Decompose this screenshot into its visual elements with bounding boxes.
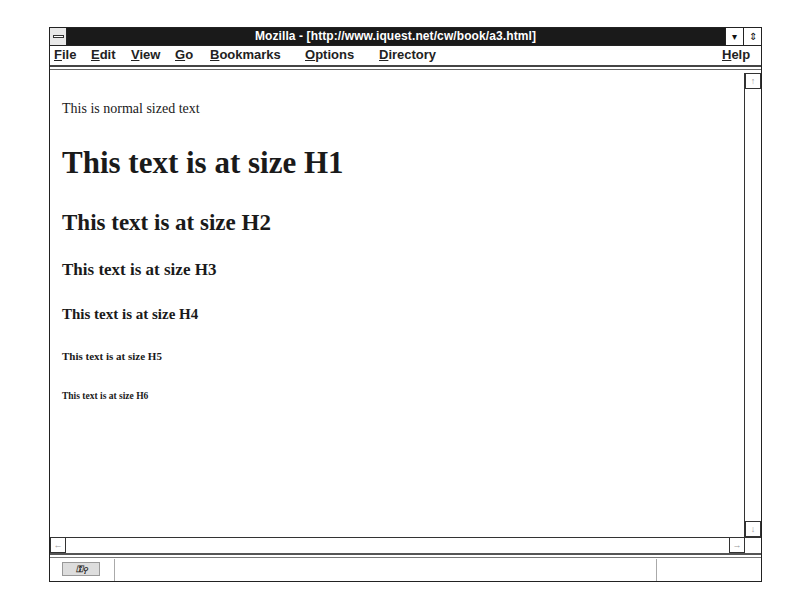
menu-file[interactable]: File: [54, 47, 76, 63]
status-divider: [50, 553, 761, 555]
status-progress: [656, 559, 761, 581]
heading-h5: This text is at size H5: [62, 350, 162, 362]
arrow-up-icon: ↑: [751, 76, 756, 86]
menu-bookmarks-label: ookmarks: [219, 47, 280, 62]
heading-h1: This text is at size H1: [62, 145, 344, 181]
scroll-right-button[interactable]: →: [729, 537, 745, 553]
maximize-button[interactable]: ⇕: [743, 28, 761, 45]
system-menu-button[interactable]: [50, 28, 67, 45]
menu-help-accel: H: [722, 47, 731, 62]
menu-bookmarks-accel: B: [210, 47, 219, 62]
scrollbar-corner: [745, 537, 761, 552]
minimize-icon: ▾: [732, 31, 737, 42]
vertical-scrollbar[interactable]: ↑ ↓: [745, 73, 761, 537]
menu-view-label: iew: [139, 47, 160, 62]
menu-view[interactable]: View: [131, 47, 160, 63]
title-bar[interactable]: Mozilla - [http://www.iquest.net/cw/book…: [50, 28, 761, 46]
horizontal-scrollbar[interactable]: ← →: [50, 537, 745, 552]
menu-edit-label: dit: [100, 47, 116, 62]
page-content: This is normal sized text This text is a…: [50, 73, 745, 537]
menu-edit-accel: E: [91, 47, 100, 62]
heading-h2: This text is at size H2: [62, 210, 271, 236]
status-bar: ⚿⚲: [50, 559, 761, 581]
menu-options[interactable]: Options: [305, 47, 354, 63]
scroll-down-button[interactable]: ↓: [745, 521, 761, 537]
menu-directory[interactable]: Directory: [379, 47, 436, 63]
minimize-button[interactable]: ▾: [725, 28, 743, 45]
security-key-icon[interactable]: ⚿⚲: [62, 562, 100, 576]
menu-options-label: ptions: [315, 47, 354, 62]
menu-divider-inner: [50, 69, 761, 70]
system-menu-icon: [53, 35, 64, 38]
browser-window: Mozilla - [http://www.iquest.net/cw/book…: [49, 27, 762, 582]
menu-divider: [50, 65, 761, 67]
menu-edit[interactable]: Edit: [91, 47, 116, 63]
scroll-up-button[interactable]: ↑: [745, 73, 761, 89]
heading-h3: This text is at size H3: [62, 260, 216, 280]
heading-h6: This text is at size H6: [62, 391, 148, 401]
menu-help-label: elp: [731, 47, 750, 62]
arrow-down-icon: ↓: [751, 524, 756, 534]
heading-h4: This text is at size H4: [62, 306, 198, 323]
menu-help[interactable]: Help: [722, 47, 750, 63]
menu-bar: File Edit View Go Bookmarks Options Dire…: [50, 46, 761, 64]
menu-go-label: o: [185, 47, 193, 62]
arrow-left-icon: ←: [54, 540, 63, 550]
maximize-icon: ⇕: [749, 31, 757, 42]
menu-options-accel: O: [305, 47, 315, 62]
scroll-left-button[interactable]: ←: [50, 537, 66, 553]
window-title: Mozilla - [http://www.iquest.net/cw/book…: [68, 28, 723, 45]
menu-bookmarks[interactable]: Bookmarks: [210, 47, 281, 63]
normal-text: This is normal sized text: [62, 101, 200, 117]
menu-directory-accel: D: [379, 47, 388, 62]
menu-go-accel: G: [175, 47, 185, 62]
arrow-right-icon: →: [733, 540, 742, 550]
menu-go[interactable]: Go: [175, 47, 193, 63]
menu-file-accel: F: [54, 47, 62, 62]
menu-file-label: ile: [62, 47, 76, 62]
status-message: [114, 559, 656, 581]
status-divider-inner: [50, 557, 761, 558]
menu-directory-label: irectory: [388, 47, 436, 62]
